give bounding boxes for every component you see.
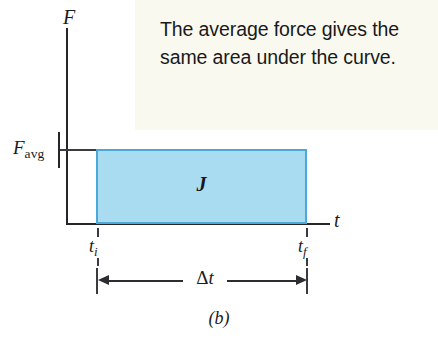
delta-symbol: Δ [196,267,208,288]
impulse-momentum-figure: The average force gives the same area un… [0,0,438,349]
t-final-subscript: f [303,244,307,259]
duration-line-left-segment [105,280,183,282]
duration-line-right-segment [227,280,299,282]
callout-text: The average force gives the same area un… [160,16,422,72]
delta-variable: t [208,267,213,288]
f-avg-guide-line [60,149,98,151]
impulse-rectangle: J [96,149,307,224]
callout-box: The average force gives the same area un… [135,0,438,130]
f-avg-axis-label: Favg [13,137,44,162]
time-axis-label: t [334,209,340,232]
t-final-label: tf [298,236,307,260]
force-axis-label: F [63,6,75,29]
figure-caption: (b) [0,308,438,329]
impulse-label: J [98,173,305,196]
force-axis-line [66,28,68,225]
f-avg-base: F [13,137,25,158]
f-avg-subscript: avg [25,146,45,161]
duration-label: Δt [183,267,227,289]
t-initial-label: ti [89,236,98,260]
t-initial-subscript: i [94,244,98,259]
